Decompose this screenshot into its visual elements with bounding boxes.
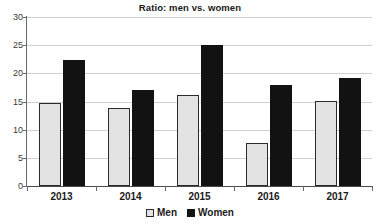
x-tick-label-2014: 2014: [119, 191, 141, 202]
legend-item-men[interactable]: Men: [146, 207, 177, 218]
women-swatch: [187, 209, 195, 217]
y-tick-label: 10: [1, 125, 23, 135]
bar-chart: Ratio: men vs. women 051015202530 201320…: [0, 0, 380, 224]
legend-item-women[interactable]: Women: [187, 207, 234, 218]
bar-men-2014: [108, 108, 130, 186]
bar-group: [303, 17, 372, 186]
bar-women-2013: [63, 60, 85, 186]
y-axis-labels: 051015202530: [0, 17, 23, 186]
bar-men-2016: [246, 143, 268, 186]
x-tick-label-2013: 2013: [50, 191, 72, 202]
legend-label: Women: [198, 207, 234, 218]
bar-women-2017: [339, 78, 361, 186]
y-tick-label: 30: [1, 12, 23, 22]
y-tick-label: 25: [1, 40, 23, 50]
bar-women-2014: [132, 90, 154, 186]
x-tick-label-2016: 2016: [257, 191, 279, 202]
bar-group: [96, 17, 165, 186]
bar-men-2015: [177, 95, 199, 186]
bar-women-2015: [201, 45, 223, 186]
bar-group: [165, 17, 234, 186]
y-tick-label: 5: [1, 153, 23, 163]
bar-men-2017: [315, 101, 337, 186]
bar-group: [234, 17, 303, 186]
x-tick-mark: [372, 186, 373, 191]
plot-area: [27, 17, 372, 186]
x-axis-labels: 20132014201520162017: [27, 191, 372, 205]
x-tick-label-2015: 2015: [188, 191, 210, 202]
x-tick-label-2017: 2017: [326, 191, 348, 202]
bar-women-2016: [270, 85, 292, 186]
y-tick-label: 0: [1, 181, 23, 191]
legend-label: Men: [157, 207, 177, 218]
y-tick-label: 15: [1, 97, 23, 107]
bar-men-2013: [39, 103, 61, 186]
chart-title: Ratio: men vs. women: [0, 2, 380, 13]
chart-legend: MenWomen: [0, 207, 380, 218]
bar-group: [27, 17, 96, 186]
y-tick-label: 20: [1, 68, 23, 78]
men-swatch: [146, 209, 154, 217]
